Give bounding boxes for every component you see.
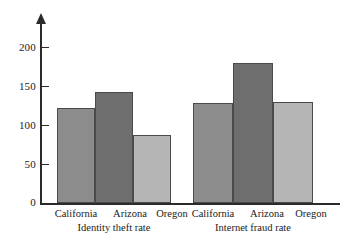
y-tick-label-150: 150 <box>6 81 36 92</box>
bar-identity-arizona <box>95 92 133 203</box>
x-label-fraud-california: California <box>177 208 249 220</box>
y-tick-label-200: 200 <box>6 42 36 53</box>
y-tick-50 <box>42 164 49 165</box>
x-axis-line <box>40 203 340 205</box>
y-tick-label-0: 0 <box>6 197 36 208</box>
bar-identity-oregon <box>133 135 171 203</box>
bar-fraud-oregon <box>273 102 313 203</box>
y-tick-label-100: 100 <box>6 120 36 131</box>
bar-chart-figure: 200 150 100 50 0 California Arizona Oreg… <box>0 0 350 246</box>
bar-fraud-arizona <box>233 63 273 203</box>
y-axis-line <box>40 22 42 204</box>
y-tick-label-50: 50 <box>6 159 36 170</box>
bar-identity-california <box>57 108 95 203</box>
group-label-internet-fraud-rate: Internet fraud rate <box>173 222 333 234</box>
bar-fraud-california <box>193 103 233 203</box>
group-label-identity-theft-rate: Identity theft rate <box>34 222 194 234</box>
x-label-identity-california: California <box>40 208 112 220</box>
x-label-fraud-oregon: Oregon <box>285 208 337 220</box>
y-tick-200 <box>42 47 49 48</box>
y-tick-150 <box>42 86 49 87</box>
y-tick-100 <box>42 125 49 126</box>
